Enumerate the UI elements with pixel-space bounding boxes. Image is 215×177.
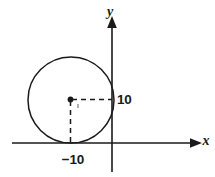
y-value-label: 10 [117,92,132,107]
x-axis-arrowhead [190,138,202,148]
x-axis-label: x [202,133,210,148]
x-value-label: −10 [62,152,84,167]
coordinate-plane-svg: 10 −10 y x [0,0,215,177]
center-point-dot [68,97,74,103]
y-axis-label: y [105,4,114,19]
x-axis-group [12,138,202,148]
y-axis-group [107,16,117,172]
circle-graph-figure: 10 −10 y x [0,0,215,177]
